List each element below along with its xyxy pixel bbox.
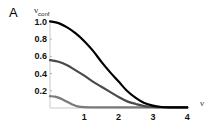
x-tick-label: 4	[185, 112, 190, 122]
x-tick-label: 3	[150, 112, 155, 122]
x-tick-label: 1	[82, 112, 87, 122]
series-line-curve-1	[50, 21, 187, 107]
series-line-curve-2	[50, 60, 187, 107]
series-group	[50, 21, 187, 107]
y-tick-label: 0.6	[34, 51, 47, 61]
y-tick-label: 0.8	[34, 34, 47, 44]
x-tick-label: 2	[116, 112, 121, 122]
y-tick-label: 0.2	[34, 86, 47, 96]
y-tick-label: 1.0	[34, 17, 47, 27]
y-tick-label: 0.4	[34, 69, 47, 79]
line-chart: 0.20.40.60.81.01234	[0, 0, 214, 124]
